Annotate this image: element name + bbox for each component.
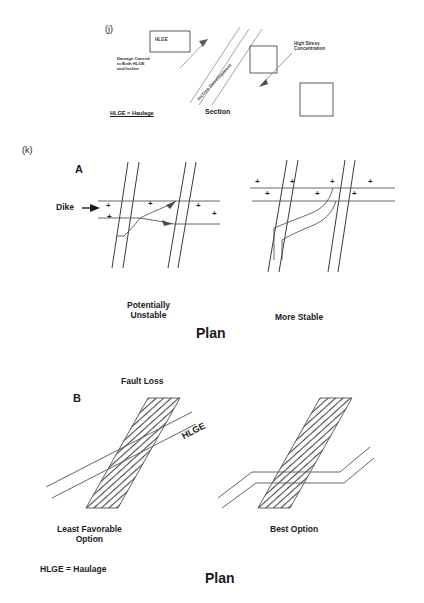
plus-mark: + xyxy=(148,199,153,208)
plus-mark: + xyxy=(315,189,320,198)
section-a-left-caption: Potentially Unstable xyxy=(127,301,170,321)
section-b-right-caption: Best Option xyxy=(270,525,318,535)
dike-bands-right xyxy=(268,160,355,272)
plus-mark: + xyxy=(352,189,357,198)
dike-label: Dike xyxy=(56,203,74,213)
section-b-left-caption: Least Favorable Option xyxy=(57,525,122,545)
section-a-view-label: Plan xyxy=(196,325,226,341)
fault-band-right xyxy=(258,398,352,508)
dike-arrowhead-icon xyxy=(90,204,100,212)
plus-mark: + xyxy=(255,177,260,186)
figure-panel-k: (k) A xyxy=(0,0,424,603)
plus-mark: + xyxy=(290,177,295,186)
plus-mark: + xyxy=(330,177,335,186)
haulage-drive-left xyxy=(98,201,220,236)
fault-band-left xyxy=(86,398,180,508)
plus-mark: + xyxy=(212,209,217,218)
plus-mark: + xyxy=(368,177,373,186)
dike-bands-left xyxy=(112,162,196,268)
fault-loss-label: Fault Loss xyxy=(121,377,164,387)
plus-mark: + xyxy=(106,201,111,210)
section-b-view-label: Plan xyxy=(205,570,235,586)
panel-k-legend: HLGE = Haulage xyxy=(40,565,106,575)
flow-arrowhead-a1 xyxy=(166,201,176,209)
section-a-drawing: + + + + + + + + + + + + xyxy=(0,150,424,350)
plus-mark: + xyxy=(107,212,112,221)
plus-mark: + xyxy=(265,189,270,198)
plus-mark: + xyxy=(196,201,201,210)
section-a-right-caption: More Stable xyxy=(275,313,323,323)
